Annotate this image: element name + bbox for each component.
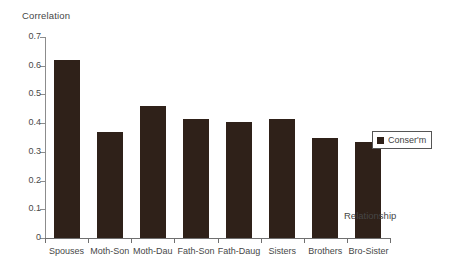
y-axis-line — [45, 37, 46, 239]
y-tick-label: 0 — [36, 232, 41, 242]
bar — [355, 142, 381, 238]
bar — [140, 106, 166, 238]
y-tick-label: 0.4 — [28, 117, 41, 127]
x-category-label: Moth-Son — [90, 246, 129, 256]
x-tick-mark — [218, 238, 219, 243]
x-category-label: Bro-Sister — [348, 246, 388, 256]
legend-label: Conser'm — [388, 135, 426, 145]
y-axis-title: Correlation — [22, 10, 70, 21]
x-tick-mark — [261, 238, 262, 243]
legend: Conser'm — [372, 131, 432, 149]
x-axis-title: Relationship — [344, 210, 396, 221]
x-tick-mark — [304, 238, 305, 243]
bar — [183, 119, 209, 238]
x-category-label: Fath-Daug — [218, 246, 261, 256]
x-category-label: Brothers — [308, 246, 342, 256]
x-tick-mark — [174, 238, 175, 243]
x-category-label: Spouses — [49, 246, 84, 256]
bar — [269, 119, 295, 238]
x-tick-mark — [390, 238, 391, 243]
x-tick-mark — [45, 238, 46, 243]
x-category-label: Sisters — [268, 246, 296, 256]
y-tick-label: 0.6 — [28, 60, 41, 70]
bar — [312, 138, 338, 239]
bar-chart: Correlation 00.10.20.30.40.50.60.7 Spous… — [0, 0, 450, 272]
x-tick-mark — [88, 238, 89, 243]
y-tick-label: 0.5 — [28, 88, 41, 98]
plot-area: 00.10.20.30.40.50.60.7 — [45, 37, 390, 239]
y-tick-label: 0.3 — [28, 146, 41, 156]
legend-swatch-icon — [377, 137, 384, 144]
x-category-label: Fath-Son — [177, 246, 214, 256]
y-tick-label: 0.7 — [28, 31, 41, 41]
x-tick-mark — [347, 238, 348, 243]
bar — [226, 122, 252, 238]
y-tick-label: 0.1 — [28, 203, 41, 213]
y-tick-label: 0.2 — [28, 175, 41, 185]
bar — [54, 60, 80, 238]
x-category-label: Moth-Dau — [133, 246, 173, 256]
x-tick-mark — [131, 238, 132, 243]
bar — [97, 132, 123, 238]
